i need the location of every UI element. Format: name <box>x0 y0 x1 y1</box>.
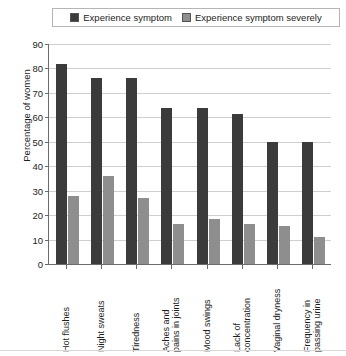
x-axis-label: Aches andpains in joints <box>161 270 181 352</box>
x-axis-label: Mood swings <box>202 270 212 352</box>
y-axis-title: Percentage of women <box>21 46 32 186</box>
x-axis-label: Hot flushes <box>61 270 71 352</box>
bar-group <box>191 44 226 264</box>
x-label-cell: Lack ofconcentration <box>224 270 259 352</box>
bar[interactable] <box>173 224 184 264</box>
y-tick-mark <box>45 117 49 118</box>
y-tick-label: 0 <box>38 259 43 270</box>
bar-group <box>85 44 120 264</box>
y-tick-label: 80 <box>32 63 43 74</box>
x-axis-label-line: pains in joints <box>171 270 181 352</box>
bar[interactable] <box>244 224 255 264</box>
x-label-cell: Night sweats <box>83 270 118 352</box>
bar[interactable] <box>279 226 290 264</box>
x-axis-label-line: Aches and <box>161 309 171 352</box>
y-tick-label: 50 <box>32 136 43 147</box>
x-axis-label-line: Hot flushes <box>61 307 71 352</box>
bar[interactable] <box>138 198 149 264</box>
y-tick-label: 90 <box>32 39 43 50</box>
x-tick-cell <box>83 264 118 269</box>
x-axis-label: Vaginal dryness <box>272 270 282 352</box>
x-tick-mark <box>101 264 102 269</box>
x-axis-label: Lack ofconcentration <box>232 270 252 352</box>
legend-swatch-dark-icon <box>70 13 79 22</box>
y-tick-mark <box>45 93 49 94</box>
x-label-cell: Hot flushes <box>48 270 83 352</box>
x-axis-label-line: Vaginal dryness <box>272 289 282 352</box>
x-tick-cell <box>295 264 330 269</box>
bar[interactable] <box>267 142 278 264</box>
y-tick-label: 70 <box>32 87 43 98</box>
y-tick-mark <box>45 44 49 45</box>
legend-label-experience-symptom: Experience symptom <box>83 13 172 23</box>
bar[interactable] <box>103 176 114 264</box>
x-axis-label: Tiredness <box>131 270 141 352</box>
x-tick-mark <box>136 264 137 269</box>
bar[interactable] <box>302 142 313 264</box>
y-tick-mark <box>45 215 49 216</box>
x-tick-mark <box>171 264 172 269</box>
x-axis-label-line: Lack of <box>232 323 242 352</box>
x-label-cell: Frequency inpassing urine <box>295 270 330 352</box>
x-label-cell: Aches andpains in joints <box>154 270 189 352</box>
bar-group <box>155 44 190 264</box>
bar-group <box>50 44 85 264</box>
x-axis-label-line: concentration <box>242 270 252 352</box>
x-axis-label: Frequency inpassing urine <box>302 270 322 352</box>
bar[interactable] <box>126 78 137 264</box>
bar[interactable] <box>161 108 172 264</box>
y-tick-mark <box>45 142 49 143</box>
x-tick-mark <box>207 264 208 269</box>
x-tick-mark <box>277 264 278 269</box>
x-label-cell: Mood swings <box>189 270 224 352</box>
bar-chart-figure: Experience symptom Experience symptom se… <box>0 0 346 356</box>
y-tick-label: 30 <box>32 185 43 196</box>
x-label-cell: Tiredness <box>119 270 154 352</box>
bar-group <box>261 44 296 264</box>
x-axis-label-line: passing urine <box>312 270 322 352</box>
x-axis-ticks <box>48 264 330 269</box>
legend-entry-experience-symptom: Experience symptom <box>70 13 172 23</box>
x-tick-cell <box>189 264 224 269</box>
x-axis-label-line: Night sweats <box>96 300 106 352</box>
bar[interactable] <box>314 237 325 264</box>
x-axis-label-line: Frequency in <box>302 300 312 352</box>
y-tick-label: 60 <box>32 112 43 123</box>
chart-legend: Experience symptom Experience symptom se… <box>52 8 340 27</box>
x-tick-cell <box>260 264 295 269</box>
bar[interactable] <box>68 196 79 264</box>
legend-swatch-gray-icon <box>182 13 191 22</box>
y-tick-mark <box>45 68 49 69</box>
x-axis-labels: Hot flushesNight sweatsTirednessAches an… <box>48 270 330 352</box>
bar-group <box>120 44 155 264</box>
legend-label-experience-symptom-severely: Experience symptom severely <box>195 13 322 23</box>
bar[interactable] <box>91 78 102 264</box>
bar[interactable] <box>197 108 208 264</box>
x-label-cell: Vaginal dryness <box>260 270 295 352</box>
x-tick-cell <box>48 264 83 269</box>
x-tick-cell <box>119 264 154 269</box>
plot-wrapper: 9080706050403020100 <box>48 44 330 264</box>
bottom-divider <box>0 350 346 351</box>
bar-group <box>296 44 331 264</box>
x-axis-label-line: Mood swings <box>202 299 212 352</box>
x-tick-cell <box>154 264 189 269</box>
y-tick-label: 40 <box>32 161 43 172</box>
y-tick-label: 10 <box>32 234 43 245</box>
x-axis-label-line: Tiredness <box>131 313 141 352</box>
bar[interactable] <box>56 64 67 264</box>
bar-group <box>226 44 261 264</box>
y-tick-mark <box>45 191 49 192</box>
plot-area: 9080706050403020100 <box>48 44 331 265</box>
bar-groups <box>50 44 331 264</box>
bar[interactable] <box>232 114 243 264</box>
y-tick-mark <box>45 240 49 241</box>
x-tick-mark <box>242 264 243 269</box>
x-tick-mark <box>312 264 313 269</box>
x-axis-label: Night sweats <box>96 270 106 352</box>
y-tick-label: 20 <box>32 210 43 221</box>
x-tick-cell <box>224 264 259 269</box>
y-tick-mark <box>45 166 49 167</box>
bar[interactable] <box>209 219 220 264</box>
x-tick-mark <box>66 264 67 269</box>
